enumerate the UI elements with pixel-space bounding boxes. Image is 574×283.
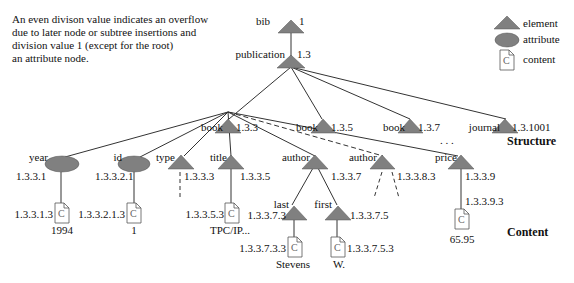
- id-title-content: 1.3.3.5.3: [186, 208, 225, 220]
- legend-attribute-icon: [495, 33, 519, 47]
- legend-content-label: content: [523, 53, 555, 65]
- id-book-3: 1.3.7: [418, 121, 441, 133]
- content-first: [331, 237, 345, 257]
- id-price: 1.3.3.9: [465, 170, 496, 182]
- legend-attribute-label: attribute: [523, 33, 560, 45]
- label-type: type: [156, 151, 175, 163]
- content-price: [455, 209, 469, 229]
- xml-tree-diagram: C: [0, 0, 574, 283]
- id-publication: 1.3: [297, 48, 311, 60]
- id-last-content: 1.3.3.7.3.3: [239, 242, 286, 254]
- label-id: id: [113, 151, 122, 163]
- label-title: title: [210, 151, 227, 163]
- id-book-2: 1.3.5: [331, 121, 354, 133]
- label-year: year: [29, 151, 48, 163]
- legend-content-icon: [500, 50, 514, 70]
- legend-element-label: element: [523, 17, 558, 29]
- label-first: first: [314, 198, 332, 210]
- label-author-1: author: [282, 151, 310, 163]
- id-first-content: 1.3.3.7.5.3: [347, 242, 394, 254]
- legend: element attribute content: [494, 16, 560, 70]
- content-year: [55, 203, 69, 223]
- id-id-content: 1.3.3.2.1.3: [78, 208, 125, 220]
- more-siblings-ellipsis: . . .: [440, 134, 454, 146]
- section-structure: Structure: [507, 134, 557, 148]
- value-title: TPC/IP...: [210, 224, 250, 236]
- content-id: [127, 203, 141, 223]
- label-author-2: author: [349, 151, 377, 163]
- id-bib: 1: [299, 15, 305, 27]
- value-year: 1994: [51, 224, 74, 236]
- id-id: 1.3.3.2.1: [95, 170, 134, 182]
- label-book-2: book: [296, 121, 319, 133]
- id-year: 1.3.3.1: [16, 170, 46, 182]
- value-id: 1: [131, 224, 137, 236]
- node-year-attribute: [45, 156, 79, 172]
- label-book-3: book: [383, 121, 406, 133]
- label-journal: journal: [468, 121, 500, 133]
- id-last: 1.3.3.7.3: [248, 209, 287, 221]
- id-price-content: 1.3.3.9.3: [465, 195, 504, 207]
- label-publication: publication: [236, 48, 286, 60]
- id-first: 1.3.3.7.5: [350, 209, 389, 221]
- section-content: Content: [507, 225, 548, 239]
- id-author-2: 1.3.3.8.3: [397, 170, 436, 182]
- id-title: 1.3.3.5: [240, 170, 271, 182]
- id-author-1: 1.3.3.7: [331, 170, 362, 182]
- legend-element-icon: [494, 16, 520, 29]
- label-book-1: book: [201, 121, 224, 133]
- content-last: [288, 237, 302, 257]
- value-price: 65.95: [450, 233, 475, 245]
- content-title: [225, 203, 239, 223]
- value-last: Stevens: [276, 258, 310, 270]
- id-year-content: 1.3.3.1.3: [15, 208, 54, 220]
- value-first: W.: [333, 258, 345, 270]
- label-price: price: [435, 151, 457, 163]
- id-book-1: 1.3.3: [236, 121, 259, 133]
- id-type: 1.3.3.3: [184, 170, 215, 182]
- label-bib: bib: [256, 15, 271, 27]
- id-journal: 1.3.1001: [512, 121, 551, 133]
